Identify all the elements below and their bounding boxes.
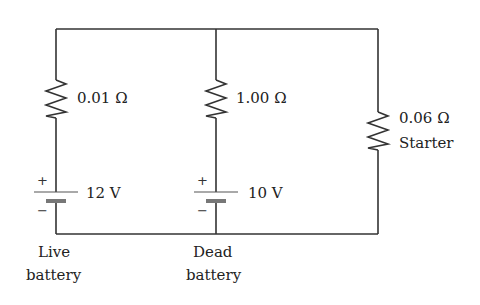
battery-dead-voltage: 10 V — [248, 185, 283, 202]
resistor-live-icon — [46, 80, 66, 118]
battery-dead-plus-sign: + — [197, 174, 208, 187]
resistor-dead-label: 1.00 Ω — [236, 90, 287, 107]
circuit-diagram — [0, 0, 480, 305]
battery-live-caption-line2: battery — [26, 267, 81, 284]
battery-live-voltage: 12 V — [86, 185, 121, 202]
resistor-dead-icon — [206, 80, 226, 118]
battery-live-caption-line1: Live — [38, 244, 70, 261]
battery-live-minus-sign: − — [37, 204, 48, 217]
battery-live-plus-sign: + — [37, 174, 48, 187]
resistor-starter-label: 0.06 Ω — [399, 110, 450, 127]
battery-dead-minus-sign: − — [197, 204, 208, 217]
starter-label: Starter — [399, 135, 454, 152]
battery-live-icon — [34, 192, 78, 203]
battery-dead-caption-line2: battery — [186, 267, 241, 284]
resistor-starter-icon — [368, 112, 388, 150]
resistor-live-label: 0.01 Ω — [77, 90, 128, 107]
battery-dead-icon — [194, 192, 238, 203]
battery-dead-caption-line1: Dead — [193, 244, 232, 261]
